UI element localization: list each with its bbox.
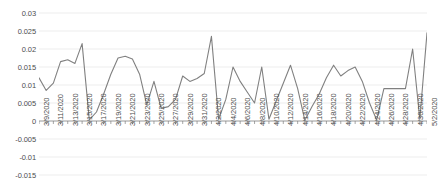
x-axis-tick-label: 4/8/2020 bbox=[258, 98, 267, 126]
y-axis-tick-label: -0.005 bbox=[15, 135, 36, 144]
x-axis-tick-label: 4/12/2020 bbox=[286, 94, 295, 126]
y-axis-tick-label: 0.005 bbox=[18, 99, 36, 108]
x-axis-tick-label: 3/9/2020 bbox=[42, 98, 51, 126]
y-axis-tick-label: 0.03 bbox=[22, 9, 36, 18]
x-axis-tick-label: 3/13/2020 bbox=[71, 94, 80, 126]
x-axis-tick-label: 3/31/2020 bbox=[200, 94, 209, 126]
x-axis-tick-label: 4/16/2020 bbox=[315, 94, 324, 126]
x-axis-tick-label: 4/4/2020 bbox=[229, 98, 238, 126]
x-axis-tick-label: 3/21/2020 bbox=[128, 94, 137, 126]
x-axis-tick-label: 3/17/2020 bbox=[99, 94, 108, 126]
x-axis-tick-label: 4/20/2020 bbox=[344, 94, 353, 126]
x-axis-tick-label: 3/27/2020 bbox=[171, 94, 180, 126]
x-axis-tick-label: 4/14/2020 bbox=[301, 94, 310, 126]
line-chart: 0.030.0250.020.0150.010.0050-0.005-0.01-… bbox=[0, 0, 440, 183]
y-axis-tick-label: -0.01 bbox=[19, 153, 36, 162]
y-axis: 0.030.0250.020.0150.010.0050-0.005-0.01-… bbox=[0, 0, 36, 183]
x-axis-tick-label: 4/30/2020 bbox=[416, 94, 425, 126]
x-axis-tick-label: 4/6/2020 bbox=[243, 98, 252, 126]
x-axis-tick-label: 4/18/2020 bbox=[329, 94, 338, 126]
x-axis-tick-label: 3/23/2020 bbox=[143, 94, 152, 126]
x-axis-tick-label: 4/28/2020 bbox=[401, 94, 410, 126]
x-axis-tick-label: 4/24/2020 bbox=[373, 94, 382, 126]
x-axis-tick-label: 4/22/2020 bbox=[358, 94, 367, 126]
x-axis-tick-label: 3/29/2020 bbox=[186, 94, 195, 126]
y-axis-tick-label: -0.015 bbox=[15, 171, 36, 180]
x-axis-tick-label: 3/11/2020 bbox=[56, 94, 65, 126]
x-axis-tick-label: 4/2/2020 bbox=[214, 98, 223, 126]
x-axis-tick-label: 3/19/2020 bbox=[114, 94, 123, 126]
x-axis-tick-label: 3/25/2020 bbox=[157, 94, 166, 126]
y-axis-tick-label: 0.01 bbox=[22, 81, 36, 90]
x-axis-tick-label: 4/26/2020 bbox=[387, 94, 396, 126]
y-axis-tick-label: 0 bbox=[32, 117, 36, 126]
x-axis-tick-label: 3/15/2020 bbox=[85, 94, 94, 126]
y-axis-tick-label: 0.02 bbox=[22, 45, 36, 54]
x-axis-tick-label: 4/10/2020 bbox=[272, 94, 281, 126]
y-axis-tick-label: 0.025 bbox=[18, 27, 36, 36]
x-axis: 3/9/20203/11/20203/13/20203/15/20203/17/… bbox=[39, 0, 440, 183]
y-axis-tick-label: 0.015 bbox=[18, 63, 36, 72]
x-axis-tick-label: 5/2/2020 bbox=[430, 98, 439, 126]
